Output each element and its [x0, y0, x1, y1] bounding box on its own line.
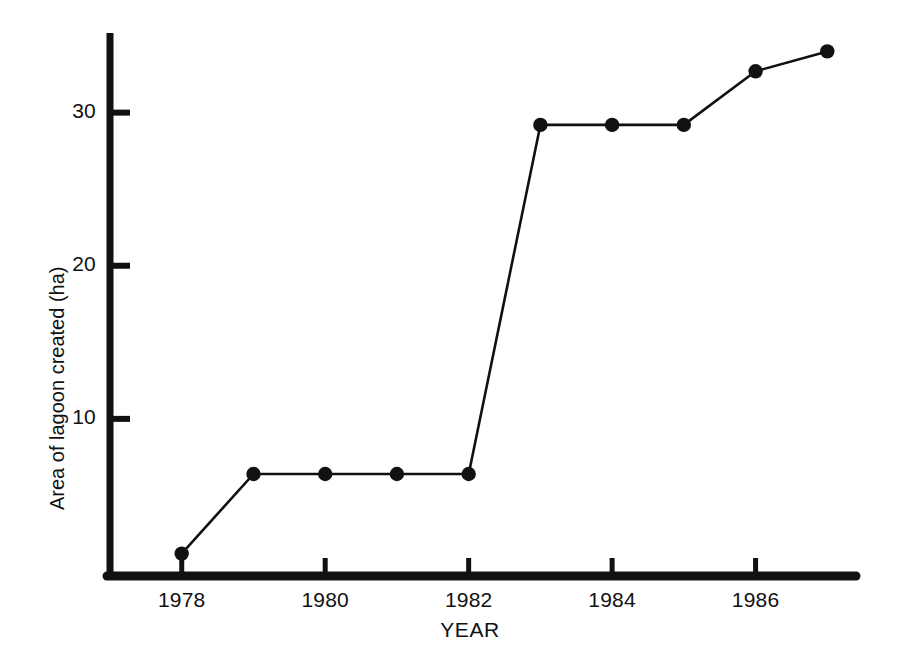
data-point-1984 — [605, 118, 619, 132]
y-tick-label-10: 10 — [72, 405, 96, 429]
data-point-1981 — [390, 467, 404, 481]
x-tick-label-1980: 1980 — [280, 588, 370, 612]
x-tick-label-1984: 1984 — [567, 588, 657, 612]
chart-plot-area — [0, 0, 907, 662]
data-point-1980 — [318, 467, 332, 481]
x-tick-label-1982: 1982 — [424, 588, 514, 612]
axis-lines — [107, 33, 856, 576]
data-point-1987 — [820, 44, 834, 58]
data-point-1978 — [175, 546, 189, 560]
y-axis-title: Area of lagoon created (ha) — [46, 267, 69, 511]
y-tick-label-30: 30 — [72, 99, 96, 123]
x-axis-title: YEAR — [370, 618, 570, 642]
x-tick-label-1986: 1986 — [711, 588, 801, 612]
data-point-1982 — [462, 467, 476, 481]
axis-ticks — [112, 113, 756, 574]
data-point-1985 — [677, 118, 691, 132]
line-chart-figure: 302010 19781980198219841986 Area of lago… — [0, 0, 907, 662]
data-point-1983 — [533, 118, 547, 132]
data-point-1979 — [246, 467, 260, 481]
data-point-1986 — [748, 64, 762, 78]
y-tick-label-20: 20 — [72, 252, 96, 276]
x-tick-label-1978: 1978 — [137, 588, 227, 612]
data-series-line — [182, 51, 828, 553]
